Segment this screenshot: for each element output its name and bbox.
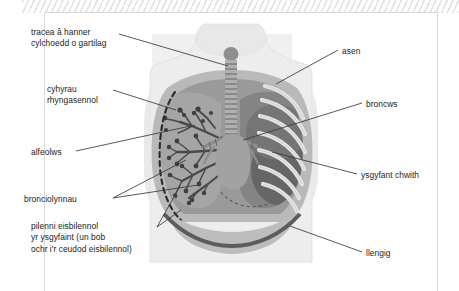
label-tracea: tracea â hanner cylchoedd o gartilag	[31, 27, 107, 50]
label-pilenni-eisbilennol: pilenni eisbilennol yr ysgyfaint (un bob…	[31, 221, 132, 255]
label-alfeolws: alfeolws	[31, 147, 62, 158]
label-cyhyrau-rhyngasennol: cyhyrau rhyngasennol	[47, 84, 98, 107]
label-llengig: llengig	[366, 248, 391, 259]
mediastinum	[216, 134, 251, 190]
figure-page: tracea â hanner cylchoedd o gartilag cyh…	[0, 0, 459, 291]
label-ysgyfant-chwith: ysgyfant chwith	[361, 170, 419, 181]
label-asen: asen	[342, 46, 360, 57]
label-broncws: broncws	[366, 99, 398, 110]
label-bronciolynnau: bronciolynnau	[24, 194, 77, 205]
